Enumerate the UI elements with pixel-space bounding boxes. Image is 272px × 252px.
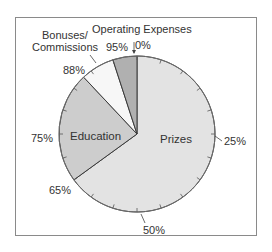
marker-25: 25% [224, 135, 246, 147]
marker-95: 95% [106, 41, 128, 53]
label-operating-expenses: Operating Expenses [92, 23, 192, 35]
pie-chart: Prizes Education Bonuses/ Commissions Op… [0, 0, 272, 252]
label-prizes: Prizes [160, 133, 192, 145]
leader-bonuses [90, 55, 96, 63]
marker-0: 0% [135, 39, 151, 51]
leader-25 [215, 136, 222, 141]
label-education: Education [70, 130, 121, 142]
marker-65: 65% [49, 184, 71, 196]
marker-75: 75% [31, 132, 53, 144]
leader-50 [141, 214, 145, 223]
label-bonuses-line2: Commissions [32, 41, 99, 53]
arrow-0 [132, 50, 136, 54]
marker-50: 50% [143, 224, 165, 236]
label-bonuses-line1: Bonuses/ [42, 29, 89, 41]
marker-88: 88% [63, 64, 85, 76]
